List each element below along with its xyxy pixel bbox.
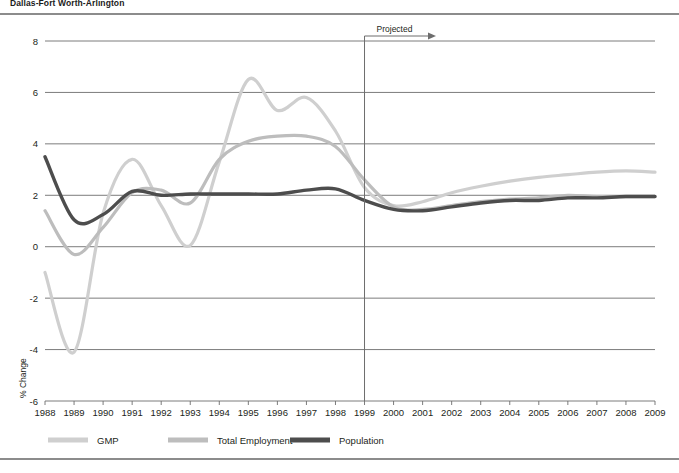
x-tick-label: 1996: [267, 407, 288, 418]
x-tick-label: 2000: [383, 407, 404, 418]
x-tick-label: 1989: [63, 407, 84, 418]
x-tick-label: 1990: [93, 407, 114, 418]
y-tick-label: 2: [33, 190, 38, 201]
x-tick-label: 2001: [412, 407, 433, 418]
y-tick-label: -6: [30, 396, 38, 407]
chart-page: Dallas-Fort Worth-Arlington 86420-2-4-6 …: [0, 0, 679, 473]
x-tick-label: 1991: [122, 407, 143, 418]
projected-annotation: Projected: [365, 24, 436, 401]
x-tick-label: 2004: [499, 407, 520, 418]
y-tick-label: 4: [33, 138, 38, 149]
legend-label-total-employment: Total Employment: [217, 435, 293, 446]
series-lines: [45, 78, 655, 353]
y-tick-label: -2: [30, 293, 38, 304]
y-tick-label: 6: [33, 87, 38, 98]
x-tick-label: 1997: [296, 407, 317, 418]
chart-legend: GMPTotal EmploymentPopulation: [48, 435, 384, 446]
legend-label-gmp: GMP: [97, 435, 119, 446]
y-tick-label: 0: [33, 241, 38, 252]
series-line-population: [45, 157, 655, 224]
x-tick-label: 1993: [180, 407, 201, 418]
line-chart: 86420-2-4-6 1988198919901991199219931994…: [0, 0, 679, 473]
x-tick-label: 2005: [528, 407, 549, 418]
projected-arrow-head: [428, 33, 436, 40]
x-tick-label: 2009: [644, 407, 665, 418]
x-tick-label: 2007: [586, 407, 607, 418]
projected-label: Projected: [377, 24, 413, 34]
x-tick-label: 2006: [557, 407, 578, 418]
y-axis-tick-labels: 86420-2-4-6: [30, 36, 38, 407]
x-tick-label: 2002: [441, 407, 462, 418]
x-axis-ticks: [45, 401, 655, 405]
x-tick-label: 2003: [470, 407, 491, 418]
x-tick-label: 2008: [615, 407, 636, 418]
x-tick-label: 1988: [34, 407, 55, 418]
grid-lines: [45, 41, 655, 401]
y-tick-label: 8: [33, 36, 38, 47]
y-tick-label: -4: [30, 344, 38, 355]
y-axis-title: % Change: [18, 358, 28, 398]
series-line-gmp: [45, 78, 655, 353]
legend-label-population: Population: [339, 435, 384, 446]
x-tick-label: 1994: [209, 407, 230, 418]
x-tick-label: 1992: [151, 407, 172, 418]
x-tick-label: 1999: [354, 407, 375, 418]
x-tick-label: 1995: [238, 407, 259, 418]
x-tick-label: 1998: [325, 407, 346, 418]
x-axis-tick-labels: 1988198919901991199219931994199519961997…: [34, 407, 665, 418]
